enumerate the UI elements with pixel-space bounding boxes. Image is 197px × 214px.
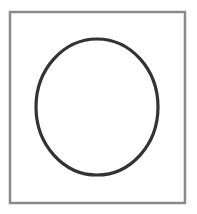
- diagram-canvas: [0, 0, 197, 214]
- ellipse-in-frame-figure: [0, 0, 197, 214]
